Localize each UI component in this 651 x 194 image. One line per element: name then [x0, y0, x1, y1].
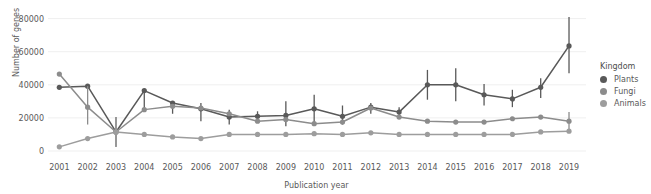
x-axis-tick-label: 2016 — [474, 163, 494, 172]
data-point — [538, 114, 543, 119]
data-point — [198, 105, 203, 110]
data-point — [453, 82, 458, 87]
data-point — [85, 136, 90, 141]
x-axis-tick-label: 2005 — [162, 163, 182, 172]
legend-item[interactable]: Plants — [600, 75, 646, 84]
x-axis-tick-label: 2011 — [332, 163, 352, 172]
data-point — [312, 121, 317, 126]
data-point — [481, 119, 486, 124]
data-point — [425, 82, 430, 87]
data-point — [425, 119, 430, 124]
data-point — [538, 85, 543, 90]
data-point — [170, 104, 175, 109]
x-axis-tick-label: 2003 — [106, 163, 126, 172]
y-axis-tick-label: 60000 — [0, 47, 44, 56]
data-point — [453, 119, 458, 124]
data-point — [312, 106, 317, 111]
data-point — [57, 71, 62, 76]
data-point — [397, 110, 402, 115]
data-point — [481, 92, 486, 97]
data-point — [142, 132, 147, 137]
data-point — [283, 132, 288, 137]
data-point — [453, 132, 458, 137]
legend: Kingdom PlantsFungiAnimals — [600, 62, 646, 111]
legend-marker-icon — [600, 88, 607, 95]
x-axis-tick-label: 2009 — [276, 163, 296, 172]
x-axis-tick-label: 2019 — [559, 163, 579, 172]
x-axis-tick-label: 2014 — [417, 163, 437, 172]
data-point — [510, 96, 515, 101]
data-point — [57, 144, 62, 149]
data-point — [142, 88, 147, 93]
data-point — [368, 130, 373, 135]
x-axis-tick-label: 2007 — [219, 163, 239, 172]
legend-item[interactable]: Animals — [600, 99, 646, 108]
x-axis-tick-label: 2010 — [304, 163, 324, 172]
legend-marker-icon — [600, 100, 607, 107]
x-axis-tick-label: 2008 — [247, 163, 267, 172]
data-point — [312, 131, 317, 136]
x-axis-tick-label: 2006 — [191, 163, 211, 172]
x-axis-tick-label: 2004 — [134, 163, 154, 172]
data-point — [85, 105, 90, 110]
chart-figure: Number of genes 020000400006000080000 20… — [0, 0, 651, 194]
y-axis-tick-label: 80000 — [0, 14, 44, 23]
data-point — [566, 43, 571, 48]
legend-item-label: Animals — [614, 99, 646, 108]
data-point — [255, 114, 260, 119]
x-axis-title: Publication year — [48, 181, 585, 190]
legend-items: PlantsFungiAnimals — [600, 75, 646, 108]
data-point — [566, 129, 571, 134]
data-point — [510, 116, 515, 121]
legend-item[interactable]: Fungi — [600, 87, 646, 96]
data-point — [142, 107, 147, 112]
legend-title: Kingdom — [600, 62, 646, 71]
data-point — [566, 119, 571, 124]
x-axis-tick-label: 2018 — [531, 163, 551, 172]
data-point — [255, 132, 260, 137]
data-point — [397, 114, 402, 119]
data-point — [510, 132, 515, 137]
y-axis-tick-labels: 020000400006000080000 — [0, 0, 44, 194]
data-point — [340, 132, 345, 137]
data-point — [170, 134, 175, 139]
x-axis-tick-label: 2013 — [389, 163, 409, 172]
x-axis-tick-label: 2017 — [502, 163, 522, 172]
data-point — [425, 132, 430, 137]
x-axis-tick-label: 2015 — [446, 163, 466, 172]
data-point — [227, 132, 232, 137]
data-point — [368, 105, 373, 110]
y-axis-tick-label: 40000 — [0, 80, 44, 89]
data-point — [538, 129, 543, 134]
y-axis-tick-label: 20000 — [0, 113, 44, 122]
data-point — [255, 119, 260, 124]
data-point — [198, 136, 203, 141]
legend-item-label: Plants — [614, 75, 638, 84]
data-point — [283, 117, 288, 122]
legend-marker-icon — [600, 76, 607, 83]
data-point — [340, 114, 345, 119]
data-point — [340, 119, 345, 124]
y-axis-tick-label: 0 — [0, 147, 44, 156]
x-axis-tick-label: 2001 — [49, 163, 69, 172]
x-axis-tick-label: 2012 — [361, 163, 381, 172]
data-point — [481, 132, 486, 137]
data-point — [113, 129, 118, 134]
x-axis-tick-label: 2002 — [77, 163, 97, 172]
data-point — [227, 111, 232, 116]
data-point — [397, 132, 402, 137]
data-point — [57, 85, 62, 90]
legend-item-label: Fungi — [614, 87, 636, 96]
